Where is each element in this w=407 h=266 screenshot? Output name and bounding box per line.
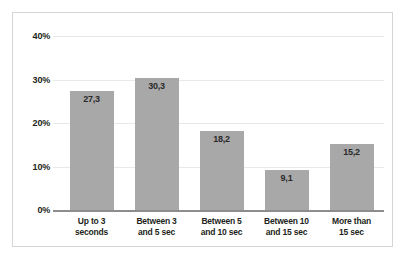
bar[interactable]: 27,3 xyxy=(70,91,114,210)
y-axis-tick-label: 20% xyxy=(33,118,50,128)
y-axis-tick-label: 40% xyxy=(33,31,50,41)
x-axis-category-label: Between 10 and 15 sec xyxy=(254,216,319,237)
bar-column: 9,1 xyxy=(254,36,319,210)
bar-column: 15,2 xyxy=(319,36,384,210)
x-axis-category-label: Between 5 and 10 sec xyxy=(189,216,254,237)
bar-column: 27,3 xyxy=(59,36,124,210)
bar[interactable]: 9,1 xyxy=(265,170,309,210)
bar-value-label: 18,2 xyxy=(200,134,244,144)
bar[interactable]: 30,3 xyxy=(135,78,179,210)
y-axis-tick-label: 0% xyxy=(37,205,50,215)
bar[interactable]: 18,2 xyxy=(200,131,244,210)
bar-column: 30,3 xyxy=(124,36,189,210)
bar-series: 27,330,318,29,115,2 xyxy=(59,36,384,210)
x-axis-category-label: More than 15 sec xyxy=(319,216,384,237)
bar-value-label: 9,1 xyxy=(265,173,309,183)
gridline xyxy=(53,210,384,212)
x-axis-category-labels: Up to 3 secondsBetween 3 and 5 secBetwee… xyxy=(59,216,384,237)
y-axis-tick-label: 30% xyxy=(33,75,50,85)
plot-area: 0%10%20%30%40% 27,330,318,29,115,2 Up to… xyxy=(13,13,392,246)
chart-container: 0%10%20%30%40% 27,330,318,29,115,2 Up to… xyxy=(12,12,393,247)
bar-value-label: 30,3 xyxy=(135,81,179,91)
y-axis-tick-label: 10% xyxy=(33,162,50,172)
bar-value-label: 27,3 xyxy=(70,94,114,104)
bar-value-label: 15,2 xyxy=(330,147,374,157)
bar[interactable]: 15,2 xyxy=(330,144,374,210)
x-axis-category-label: Up to 3 seconds xyxy=(59,216,124,237)
x-axis-category-label: Between 3 and 5 sec xyxy=(124,216,189,237)
bar-column: 18,2 xyxy=(189,36,254,210)
